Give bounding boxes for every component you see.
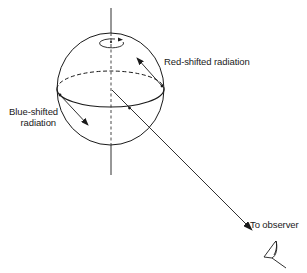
red-shift-arrow: [137, 58, 163, 87]
observer-eye-icon: [264, 241, 286, 268]
blue-shift-arrow: [59, 94, 88, 125]
equator-back: [57, 71, 164, 89]
observer-line-arrow: [112, 90, 252, 230]
blue-shifted-label-line2: radiation: [5, 117, 56, 128]
red-shifted-label: Red-shifted radiation: [164, 56, 250, 67]
blue-shifted-label-line1: Blue-shifted: [5, 106, 58, 117]
to-observer-label: To observer: [250, 219, 299, 230]
doppler-rotation-diagram: [0, 0, 307, 273]
star-sphere: [57, 33, 164, 145]
equator-front: [57, 89, 164, 107]
rotation-indicator-icon: [100, 38, 124, 48]
